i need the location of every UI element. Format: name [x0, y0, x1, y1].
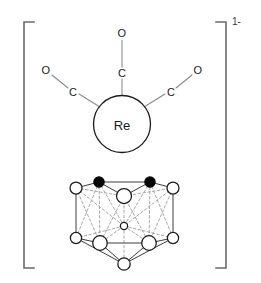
bond-re-c-left [79, 94, 100, 107]
rhenium-label: Re [114, 118, 131, 133]
boron-vertex-t1 [70, 182, 82, 194]
boron-vertex-b1 [70, 232, 81, 243]
boron-vertex-ap [118, 258, 130, 270]
carbon-vertex-t2 [94, 177, 104, 187]
carbon-label-left: C [69, 86, 77, 98]
right-bracket [216, 22, 226, 268]
cage-vertices-group [70, 177, 179, 270]
bond-re-c-right [144, 94, 165, 107]
carbon-label-top: C [118, 67, 126, 79]
bond-c-o-right [176, 75, 192, 88]
figure-canvas: 1- C O C O C O Re [0, 0, 261, 283]
chemical-structure-diagram: 1- C O C O C O Re [0, 0, 261, 283]
boron-vertex-b2 [93, 236, 108, 251]
left-bracket [24, 22, 34, 268]
cage-edge-back-t2-b2 [99, 182, 100, 243]
metal-center-group: Re [94, 96, 151, 153]
boron-vertex-t5 [167, 182, 179, 194]
boron-vertex-m1 [120, 222, 127, 229]
carbon-label-right: C [167, 86, 175, 98]
boron-vertex-b3 [142, 236, 157, 251]
charge-label: 1- [232, 16, 241, 27]
oxygen-label-right: O [194, 64, 203, 76]
oxygen-label-left: O [42, 64, 51, 76]
boron-vertex-b4 [167, 232, 178, 243]
oxygen-label-top: O [118, 27, 127, 39]
bond-c-o-left [52, 75, 68, 88]
cage-edge-back-t4-b3 [149, 182, 150, 243]
boron-vertex-t3 [117, 189, 132, 204]
carbon-vertex-t4 [145, 177, 155, 187]
